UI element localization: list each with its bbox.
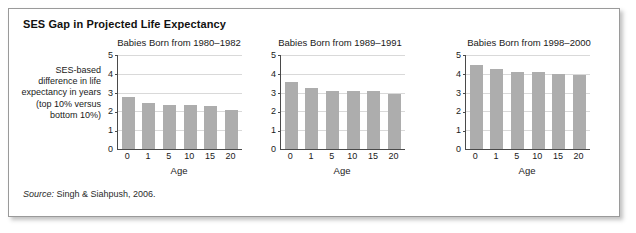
bar [388,94,401,149]
x-tick-label: 15 [366,151,379,161]
y-tick-label: 3 [271,88,276,98]
x-tick-label: 15 [203,151,216,161]
bar-series [281,55,405,149]
x-tick-label: 10 [183,151,196,161]
y-tick-label: 5 [271,50,276,60]
x-tick-label: 0 [469,151,482,161]
bar-series [118,55,242,149]
chart-panel-1989-1991: Babies Born from 1989–1991 5 4 3 2 1 0 [264,37,416,177]
x-axis-tick-labels: 015101520 [117,151,241,161]
panel-title: Babies Born from 1989–1991 [264,37,416,48]
plot-wrap: 5 4 3 2 1 0 [449,55,601,149]
source-label: Source: [23,189,54,199]
bar [532,72,545,149]
bar [573,75,586,149]
bar [552,74,565,149]
y-tick-label: 0 [271,144,276,154]
x-tick-label: 1 [304,151,317,161]
y-tick-label: 3 [108,88,113,98]
x-tick-label: 5 [325,151,338,161]
bar [490,69,503,149]
x-tick-label: 10 [531,151,544,161]
source-note: Source: Singh & Siahpush, 2006. [23,189,156,199]
x-tick-label: 15 [551,151,564,161]
plot-wrap: 5 4 3 2 1 0 [264,55,416,149]
bar [285,82,298,149]
bar [142,103,155,149]
x-tick-label: 1 [141,151,154,161]
chart-panel-1998-2000: Babies Born from 1998–2000 5 4 3 2 1 0 [449,37,601,177]
bar [367,91,380,149]
y-tick-label: 1 [456,125,461,135]
bar [511,72,524,149]
y-tick-label: 2 [271,106,276,116]
x-axis-title: Age [465,165,589,176]
x-axis-tick-labels: 015101520 [465,151,589,161]
y-tick-label: 4 [108,69,113,79]
x-tick-label: 5 [162,151,175,161]
panel-title: Babies Born from 1998–2000 [453,37,605,48]
figure-container: SES Gap in Projected Life Expectancy SES… [8,8,620,217]
x-tick-label: 0 [121,151,134,161]
x-tick-label: 10 [346,151,359,161]
x-tick-label: 20 [224,151,237,161]
chart-panel-1980-1982: Babies Born from 1980–1982 5 4 3 2 1 0 [101,37,253,177]
x-tick-label: 20 [572,151,585,161]
x-tick-label: 20 [387,151,400,161]
x-axis-title: Age [280,165,404,176]
bar [470,65,483,149]
source-text: Singh & Siahpush, 2006. [54,189,156,199]
plot-wrap: 5 4 3 2 1 0 [101,55,253,149]
y-tick-label: 5 [456,50,461,60]
bar-series [466,55,590,149]
plot-area [280,55,405,150]
x-tick-label: 1 [489,151,502,161]
y-tick-label: 0 [456,144,461,154]
y-tick-label: 0 [108,144,113,154]
y-tick-label: 5 [108,50,113,60]
y-tick-label: 1 [271,125,276,135]
y-axis-caption: SES-based difference in life expectancy … [15,65,101,121]
y-tick-label: 1 [108,125,113,135]
y-tick-label: 3 [456,88,461,98]
y-axis-tick-labels: 5 4 3 2 1 0 [264,55,278,149]
y-tick-label: 2 [108,106,113,116]
y-tick-label: 4 [271,69,276,79]
y-axis-tick-labels: 5 4 3 2 1 0 [449,55,463,149]
bar [184,105,197,149]
bar [122,97,135,149]
plot-area [117,55,242,150]
bar [305,88,318,149]
bar [347,91,360,149]
x-tick-label: 5 [510,151,523,161]
panels-region: SES-based difference in life expectancy … [9,37,621,177]
bar [225,110,238,149]
x-tick-label: 0 [284,151,297,161]
bar [204,106,217,149]
bar [326,91,339,149]
x-axis-tick-labels: 015101520 [280,151,404,161]
panel-title: Babies Born from 1980–1982 [103,37,255,48]
y-axis-tick-labels: 5 4 3 2 1 0 [101,55,115,149]
figure-title: SES Gap in Projected Life Expectancy [23,18,226,30]
y-tick-label: 4 [456,69,461,79]
x-axis-title: Age [117,165,241,176]
y-tick-label: 2 [456,106,461,116]
bar [163,105,176,149]
plot-area [465,55,590,150]
